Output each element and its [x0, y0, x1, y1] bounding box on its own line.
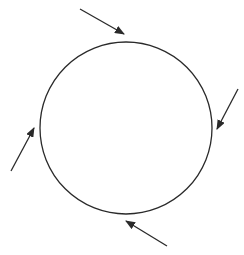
arrow-bottom-icon [126, 221, 167, 246]
arrows-group [11, 9, 238, 246]
circle-shape [40, 42, 212, 214]
arrow-top-icon [80, 9, 124, 34]
arrow-right-icon [217, 89, 238, 129]
diagram-svg [0, 0, 244, 255]
diagram-canvas [0, 0, 244, 255]
arrow-left-icon [11, 128, 34, 171]
